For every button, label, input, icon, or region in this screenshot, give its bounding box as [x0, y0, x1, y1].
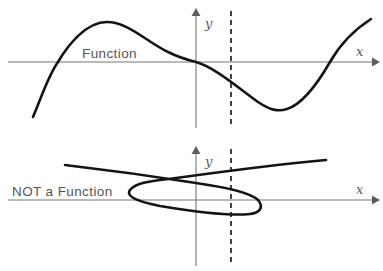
vertical-line-test-figure: y x Function y x NOT a Function — [0, 0, 383, 271]
function-curve — [33, 19, 371, 117]
function-panel: y x Function — [8, 8, 380, 128]
y-axis-arrow-bottom — [192, 146, 201, 154]
y-axis-label-bottom: y — [204, 154, 213, 169]
x-axis-arrow-bottom — [372, 195, 380, 204]
x-axis-arrow-top — [372, 57, 380, 66]
function-label: Function — [82, 46, 137, 61]
x-axis-label-bottom: x — [356, 182, 364, 197]
y-axis-label-top: y — [204, 16, 213, 31]
not-a-function-panel: y x NOT a Function — [8, 146, 380, 266]
y-axis-arrow-top — [192, 8, 201, 16]
figure-canvas: y x Function y x NOT a Function — [0, 0, 383, 271]
x-axis-label-top: x — [356, 44, 364, 59]
not-a-function-label: NOT a Function — [12, 184, 113, 199]
